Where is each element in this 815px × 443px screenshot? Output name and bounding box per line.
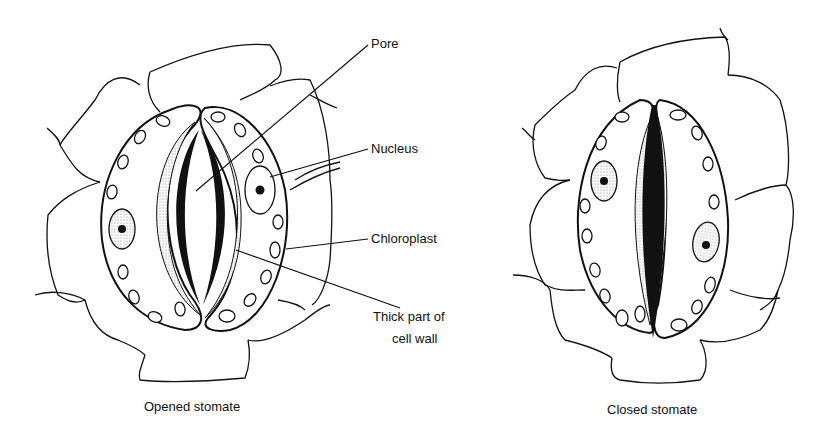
label-thick-wall-line2: cell wall [392,331,438,347]
label-thick-wall-line1: Thick part of [373,309,445,325]
label-nucleus: Nucleus [371,141,418,157]
caption-opened-stomate: Opened stomate [144,399,240,414]
label-chloroplast: Chloroplast [371,231,437,247]
closed-stomate [513,28,793,383]
opened-stomate [35,44,400,381]
caption-closed-stomate: Closed stomate [607,402,697,417]
stomata-diagram [0,0,815,443]
label-pore: Pore [371,36,398,52]
